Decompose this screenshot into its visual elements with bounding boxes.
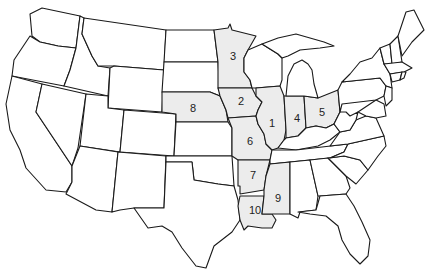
map-label-9: 9	[275, 192, 281, 204]
map-label-3: 3	[230, 50, 236, 62]
map-label-6: 6	[247, 135, 253, 147]
map-label-5: 5	[319, 106, 325, 118]
state-colorado	[120, 110, 176, 156]
map-label-8: 8	[190, 102, 196, 114]
state-kansas	[174, 122, 232, 156]
state-maryland	[358, 100, 386, 118]
state-wyoming	[108, 66, 164, 112]
state-north-dakota	[164, 30, 218, 62]
map-label-10: 10	[249, 204, 261, 216]
state-michigan	[286, 60, 318, 98]
map-label-1: 1	[269, 117, 275, 129]
map-label-4: 4	[294, 112, 300, 124]
state-new-mexico	[112, 152, 166, 212]
map-label-7: 7	[250, 169, 256, 181]
map-label-2: 2	[238, 95, 244, 107]
us-map: 1 2 3 4 5 6 7 8 9 10	[0, 0, 428, 280]
state-maine	[398, 10, 424, 56]
state-south-dakota	[162, 62, 220, 96]
state-new-jersey	[384, 86, 392, 106]
